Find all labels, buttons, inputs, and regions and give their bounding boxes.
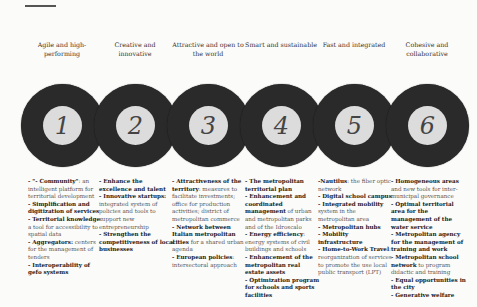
list-item: -Nautilus: the fiber optic network (318, 178, 394, 193)
pillar-3-title: Attractive and open to the world (170, 41, 246, 58)
list-item: - Innovative startups: integrated system… (99, 193, 175, 231)
pillar-3-list: - Attractiveness of the territory: measu… (172, 178, 248, 269)
list-item: - Enhancement and coordinated management… (245, 193, 321, 231)
pillar-5-title: Fast and integrated (316, 41, 392, 50)
list-item: - Energy efficiency: energy systems of c… (245, 231, 321, 254)
list-item: - Enhancement of the metropolitan real e… (245, 254, 321, 277)
pillar-2-title: Creative and innovative (97, 41, 173, 58)
pillar-2-list: - Enhance the excellence and talent - In… (99, 178, 175, 254)
pillar-3-circle: 3 (167, 84, 250, 167)
list-item: - Strengthen the competitiveness of loca… (99, 231, 175, 254)
pillar-5-list: -Nautilus: the fiber optic network - Dig… (318, 178, 394, 277)
pillar-5-circle: 5 (313, 84, 396, 167)
pillar-4-list: - The metropolitan territorial plan - En… (245, 178, 321, 300)
pillar-5-number: 5 (335, 106, 374, 145)
list-item: - Territorial knowledge: a tool for acce… (28, 216, 104, 239)
pillar-1-title: Agile and high-performing (24, 41, 100, 58)
list-item: - Equal opportunities in the city (391, 277, 467, 292)
list-item: - Metropolitan school network to program… (391, 254, 467, 277)
list-item: - Digital school campus (318, 193, 394, 201)
pillar-2-circle: 2 (94, 84, 177, 167)
pillar-1-number: 1 (43, 106, 82, 145)
pillar-1-circle: 1 (21, 84, 104, 167)
list-item: - Generative welfare (391, 292, 467, 300)
list-item: - Simplification and digitization of ser… (28, 201, 104, 216)
list-item: - Interoperability of gefo systems (28, 262, 104, 277)
list-item: - Attractiveness of the territory: measu… (172, 178, 248, 224)
list-item: - Aggregators: centers for the managemen… (28, 239, 104, 262)
pillar-6-number: 6 (408, 106, 447, 145)
list-item: - Optimal territorial area for the manag… (391, 201, 467, 231)
pillar-4-circle: 4 (240, 84, 323, 167)
list-item: - Mobility infrastructure (318, 231, 394, 246)
list-item: - Homogeneous areas and new tools for in… (391, 178, 467, 201)
pillar-4-number: 4 (262, 106, 301, 145)
list-item: - European policies: intersectoral appro… (172, 254, 248, 269)
decorative-top-rule (25, 5, 56, 7)
pillar-6-list: - Homogeneous areas and new tools for in… (391, 178, 467, 300)
list-item: - Optimization program for schools and s… (245, 277, 321, 300)
pillar-2-number: 2 (116, 106, 155, 145)
pillar-1-list: - "- Community": an intelligent platform… (28, 178, 104, 277)
list-item: - "- Community": an intelligent platform… (28, 178, 104, 201)
pillar-6-title: Cohesive and collaborative (389, 41, 465, 58)
list-item: - Enhance the excellence and talent (99, 178, 175, 193)
pillar-6-circle: 6 (386, 84, 469, 167)
list-item: - The metropolitan territorial plan (245, 178, 321, 193)
pillar-3-number: 3 (189, 106, 228, 145)
list-item: - Integrated mobility system in the metr… (318, 201, 394, 224)
list-item: - Network between Italian metropolitan c… (172, 224, 248, 254)
list-item: - Metropolitan agency for the management… (391, 231, 467, 254)
list-item: - Home-to-Work Travel: reorganization of… (318, 246, 394, 276)
pillar-4-title: Smart and sustainable (243, 41, 319, 50)
list-item: - Metropolitan hubs (318, 224, 394, 232)
